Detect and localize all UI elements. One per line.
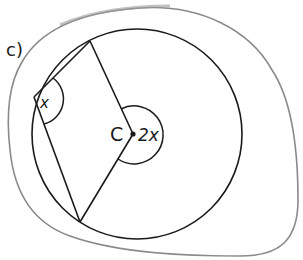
center-label: C [110, 123, 123, 145]
radius-top [90, 41, 133, 134]
center-point [130, 131, 135, 136]
radius-bottom [80, 134, 133, 222]
part-label: c) [6, 39, 23, 60]
central-angle-label: 2x [138, 125, 160, 145]
circle [32, 29, 242, 239]
inscribed-angle-label: x [39, 94, 49, 112]
outline-shading [60, 6, 170, 25]
circle-theorem-diagram: c) C 2x x [0, 0, 303, 260]
